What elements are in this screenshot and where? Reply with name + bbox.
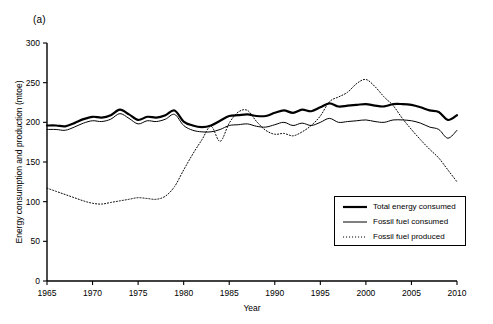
y-tick-label: 0 xyxy=(35,276,40,286)
legend-label: Total energy consumed xyxy=(373,202,456,212)
data-series-group xyxy=(47,79,457,204)
y-tick-label: 300 xyxy=(26,38,40,48)
x-tick-label: 2005 xyxy=(402,288,421,298)
x-tick-label: 1980 xyxy=(174,288,193,298)
y-tick-label: 100 xyxy=(26,197,40,207)
y-tick-label: 250 xyxy=(26,78,40,88)
x-axis-ticks: 1965197019751980198519901995200020052010 xyxy=(38,281,467,298)
series-line-fossil-fuel-produced xyxy=(47,79,457,204)
x-tick-label: 1975 xyxy=(129,288,148,298)
y-tick-label: 200 xyxy=(26,117,40,127)
legend-label: Fossil fuel consumed xyxy=(373,217,448,227)
x-tick-label: 1990 xyxy=(265,288,284,298)
x-tick-label: 2000 xyxy=(356,288,375,298)
x-tick-label: 2010 xyxy=(448,288,467,298)
y-axis-ticks: 050100150200250300 xyxy=(26,38,47,286)
y-tick-label: 150 xyxy=(26,157,40,167)
x-tick-label: 1985 xyxy=(220,288,239,298)
y-axis-title: Energy consumption and production (mtoe) xyxy=(14,80,24,243)
legend-item-fossil-fuel-produced: Fossil fuel produced xyxy=(342,231,445,243)
chart-plot-area: 050100150200250300 196519701975198019851… xyxy=(0,0,493,324)
x-tick-label: 1995 xyxy=(311,288,330,298)
legend-item-fossil-fuel-consumed: Fossil fuel consumed xyxy=(342,216,448,228)
series-line-fossil-fuel-consumed xyxy=(47,114,457,139)
legend-label: Fossil fuel produced xyxy=(373,232,445,242)
thick-solid-key-icon xyxy=(342,202,368,212)
dotted-key-icon xyxy=(342,232,368,242)
legend-item-total-energy-consumed: Total energy consumed xyxy=(342,201,456,213)
thin-solid-key-icon xyxy=(342,217,368,227)
x-axis-title: Year xyxy=(243,303,260,313)
chart-legend: Total energy consumed Fossil fuel consum… xyxy=(334,196,466,246)
x-tick-label: 1965 xyxy=(38,288,57,298)
figure-panel-a: (a) 050100150200250300 19651970197519801… xyxy=(0,0,493,324)
x-tick-label: 1970 xyxy=(83,288,102,298)
y-tick-label: 50 xyxy=(31,236,41,246)
